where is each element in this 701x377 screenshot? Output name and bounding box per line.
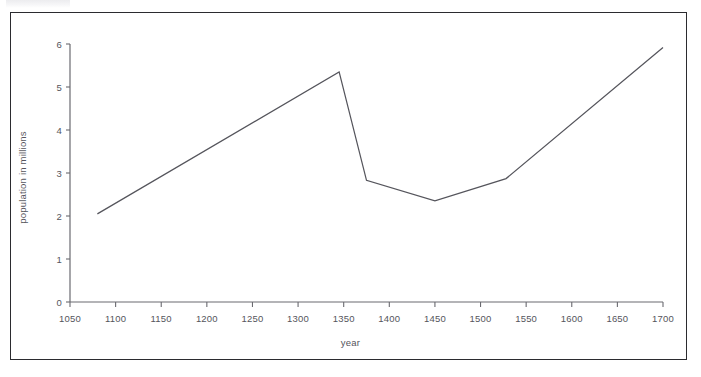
x-tick-label: 1400 [367, 313, 411, 324]
x-tick-label: 1250 [230, 313, 274, 324]
x-tick-label: 1050 [48, 313, 92, 324]
x-tick-label: 1150 [139, 313, 183, 324]
y-tick-label: 2 [40, 211, 62, 222]
y-tick-label: 4 [40, 125, 62, 136]
x-tick-label: 1100 [94, 313, 138, 324]
y-tick-label: 3 [40, 168, 62, 179]
x-tick-label: 1600 [550, 313, 594, 324]
population-data-line [97, 47, 663, 213]
x-axis-ticks [70, 302, 663, 307]
y-tick-label: 6 [40, 39, 62, 50]
x-tick-label: 1700 [641, 313, 685, 324]
y-tick-label: 0 [40, 297, 62, 308]
x-tick-label: 1500 [459, 313, 503, 324]
chart-figure: 0123456105011001150120012501300135014001… [0, 0, 701, 377]
x-tick-label: 1450 [413, 313, 457, 324]
x-tick-label: 1200 [185, 313, 229, 324]
y-tick-label: 1 [40, 254, 62, 265]
x-tick-label: 1650 [595, 313, 639, 324]
x-axis-title: year [0, 337, 701, 348]
y-axis-title: population in millions [17, 108, 28, 248]
x-tick-label: 1550 [504, 313, 548, 324]
y-tick-label: 5 [40, 82, 62, 93]
axes-group [70, 44, 663, 302]
x-tick-label: 1350 [322, 313, 366, 324]
x-tick-label: 1300 [276, 313, 320, 324]
